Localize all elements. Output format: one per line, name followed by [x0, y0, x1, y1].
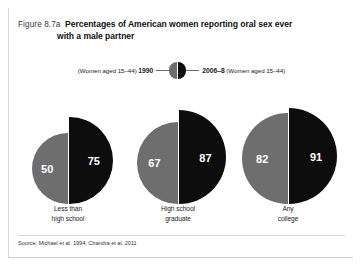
chart-group-less-than-high-school: 50 75 [13, 84, 123, 204]
legend-swatch-1990 [169, 62, 177, 79]
semicircle-2006-1: 87 [179, 110, 226, 204]
legend-connector-left [156, 70, 169, 71]
legend-right-suffix: (Women aged 15–44) [225, 67, 286, 74]
category-label-line-2: graduate [123, 214, 233, 224]
category-label-line-1: Any [233, 204, 343, 214]
legend-connector-right [186, 70, 199, 71]
chart-group-any-college: 82 91 [233, 84, 343, 204]
figure-frame: Figure 8.7a Percentages of American wome… [8, 8, 353, 258]
category-label-line-1: Less than [13, 204, 123, 214]
semicircle-2006-2: 91 [289, 108, 337, 204]
category-label-less-than-high-school: Less than high school [13, 204, 123, 223]
source-divider [18, 235, 345, 236]
value-label-2006-2: 91 [310, 152, 322, 163]
legend-left-series: 1990 [138, 67, 153, 74]
figure-number: Figure 8.7a [18, 20, 61, 29]
legend-label-1990: (Women aged 15–44) 1990 [78, 67, 153, 74]
semicircle-pair: 67 87 [123, 94, 233, 204]
chart-legend: (Women aged 15–44) 1990 2006–8 (Women ag… [9, 61, 354, 79]
category-label-high-school-graduate: High school graduate [123, 204, 233, 223]
legend-label-2006: 2006–8 (Women aged 15–44) [202, 67, 285, 74]
category-label-line-2: high school [13, 214, 123, 224]
semicircle-pair: 50 75 [13, 94, 123, 204]
chart-plot-area: 50 75 67 87 82 [9, 84, 354, 204]
category-label-line-1: High school [123, 204, 233, 214]
value-label-1990-2: 82 [256, 154, 268, 165]
semicircle-pair: 82 91 [233, 94, 343, 204]
value-label-2006-0: 75 [88, 156, 100, 167]
source-note: Source: Michael et al. 1994; Chandra et … [18, 240, 137, 246]
semicircle-1990-1: 67 [137, 122, 178, 204]
legend-swatch-2006 [178, 62, 186, 79]
figure-title-block: Figure 8.7a Percentages of American wome… [18, 16, 348, 42]
page-title: Percentages of American women reporting … [65, 19, 292, 29]
semicircle-1990-2: 82 [242, 113, 288, 204]
value-label-1990-0: 50 [41, 164, 53, 175]
split-circle-icon [169, 62, 186, 79]
value-label-1990-1: 67 [148, 158, 160, 169]
legend-right-series: 2006–8 [202, 67, 224, 74]
chart-group-high-school-graduate: 67 87 [123, 84, 233, 204]
figure-title-line-2: with a male partner [57, 31, 348, 43]
category-label-any-college: Any college [233, 204, 343, 223]
value-label-2006-1: 87 [199, 153, 211, 164]
legend-divider [177, 62, 178, 79]
category-label-line-2: college [233, 214, 343, 224]
legend-left-prefix: (Women aged 15–44) [78, 67, 139, 74]
semicircle-1990-0: 50 [32, 133, 68, 204]
category-axis-labels: Less than high school High school gradua… [9, 204, 354, 230]
semicircle-2006-0: 75 [69, 117, 113, 204]
